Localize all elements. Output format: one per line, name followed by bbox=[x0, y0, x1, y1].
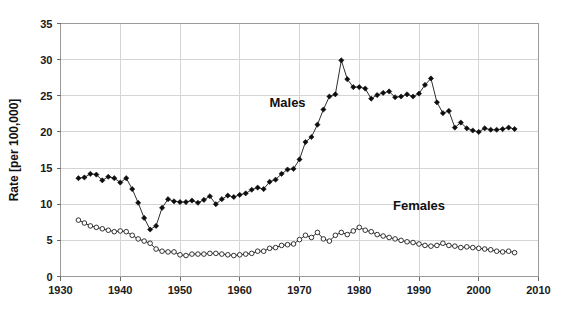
y-axis-tick-labels: 05101520253035 bbox=[40, 18, 52, 283]
data-point-marker bbox=[410, 94, 415, 99]
data-point-marker bbox=[237, 192, 242, 197]
data-point-marker bbox=[303, 233, 308, 238]
data-point-marker bbox=[399, 238, 404, 243]
data-point-marker bbox=[165, 197, 170, 202]
data-point-marker bbox=[243, 252, 248, 257]
data-point-marker bbox=[225, 193, 230, 198]
data-point-marker bbox=[470, 245, 475, 250]
data-point-marker bbox=[130, 233, 135, 238]
y-axis-title-text: Rate [per 100,000] bbox=[7, 99, 21, 202]
x-tick-label: 1970 bbox=[287, 284, 311, 296]
data-point-marker bbox=[423, 243, 428, 248]
data-point-marker bbox=[500, 126, 505, 131]
data-point-marker bbox=[446, 108, 451, 113]
y-axis-title: Rate [per 100,000] bbox=[7, 99, 21, 202]
data-point-marker bbox=[243, 191, 248, 196]
data-point-marker bbox=[82, 221, 87, 226]
y-tick-label: 35 bbox=[40, 18, 52, 30]
y-tick-label: 30 bbox=[40, 54, 52, 66]
data-point-marker bbox=[393, 237, 398, 242]
data-point-marker bbox=[434, 100, 439, 105]
data-point-marker bbox=[124, 229, 129, 234]
data-point-marker bbox=[148, 227, 153, 232]
data-point-marker bbox=[440, 111, 445, 116]
data-point-marker bbox=[130, 186, 135, 191]
data-point-marker bbox=[441, 241, 446, 246]
data-point-marker bbox=[142, 215, 147, 220]
data-point-marker bbox=[201, 197, 206, 202]
data-point-marker bbox=[178, 253, 183, 258]
x-tick-label: 1940 bbox=[108, 284, 132, 296]
data-point-marker bbox=[88, 171, 93, 176]
x-tick-label: 1960 bbox=[228, 284, 252, 296]
series-line-females bbox=[78, 220, 514, 255]
data-point-marker bbox=[100, 226, 105, 231]
data-point-marker bbox=[136, 237, 141, 242]
data-point-marker bbox=[411, 240, 416, 245]
data-point-marker bbox=[482, 126, 487, 131]
data-point-marker bbox=[220, 252, 225, 257]
data-point-marker bbox=[160, 249, 165, 254]
data-point-marker bbox=[369, 96, 374, 101]
data-point-marker bbox=[369, 229, 374, 234]
data-series bbox=[76, 58, 517, 258]
data-point-marker bbox=[315, 122, 320, 127]
data-point-marker bbox=[184, 253, 189, 258]
data-point-marker bbox=[106, 228, 111, 233]
data-point-marker bbox=[321, 237, 326, 242]
data-point-marker bbox=[429, 244, 434, 249]
data-point-marker bbox=[453, 244, 458, 249]
data-point-marker bbox=[506, 249, 511, 254]
data-point-marker bbox=[285, 242, 290, 247]
data-point-marker bbox=[405, 240, 410, 245]
data-point-marker bbox=[387, 235, 392, 240]
data-point-marker bbox=[315, 230, 320, 235]
data-point-marker bbox=[375, 92, 380, 97]
data-point-marker bbox=[159, 205, 164, 210]
data-point-marker bbox=[106, 174, 111, 179]
x-tick-label: 1980 bbox=[347, 284, 371, 296]
data-point-marker bbox=[398, 94, 403, 99]
data-point-marker bbox=[512, 250, 517, 255]
data-point-marker bbox=[112, 229, 117, 234]
data-point-marker bbox=[375, 232, 380, 237]
y-tick-label: 15 bbox=[40, 162, 52, 174]
data-point-marker bbox=[465, 245, 470, 250]
data-point-marker bbox=[506, 125, 511, 130]
data-point-marker bbox=[226, 253, 231, 258]
x-tick-label: 2000 bbox=[467, 284, 491, 296]
data-point-marker bbox=[363, 228, 368, 233]
x-axis-tick-labels: 193019401950196019701980199020002010 bbox=[48, 284, 550, 296]
data-point-marker bbox=[166, 250, 171, 255]
series-females bbox=[76, 218, 517, 258]
data-point-marker bbox=[231, 253, 236, 258]
data-point-marker bbox=[82, 175, 87, 180]
data-point-marker bbox=[154, 247, 159, 252]
data-point-marker bbox=[297, 237, 302, 242]
data-point-marker bbox=[494, 249, 499, 254]
data-point-marker bbox=[190, 252, 195, 257]
chart-container: 05101520253035 1930194019501960197019801… bbox=[0, 0, 572, 312]
data-point-marker bbox=[237, 253, 242, 258]
data-point-marker bbox=[291, 242, 296, 247]
data-point-marker bbox=[202, 252, 207, 257]
data-point-marker bbox=[339, 230, 344, 235]
y-tick-label: 10 bbox=[40, 198, 52, 210]
x-tick-label: 2010 bbox=[526, 284, 550, 296]
data-point-marker bbox=[279, 243, 284, 248]
data-point-marker bbox=[249, 187, 254, 192]
data-point-marker bbox=[476, 129, 481, 134]
data-point-marker bbox=[333, 233, 338, 238]
data-point-marker bbox=[172, 250, 177, 255]
data-point-marker bbox=[291, 166, 296, 171]
series-males bbox=[76, 58, 517, 232]
data-point-marker bbox=[196, 252, 201, 257]
data-point-marker bbox=[500, 250, 505, 255]
data-point-marker bbox=[339, 58, 344, 63]
data-point-marker bbox=[459, 245, 464, 250]
y-tick-label: 5 bbox=[46, 234, 52, 246]
data-point-marker bbox=[357, 225, 362, 230]
data-point-marker bbox=[476, 246, 481, 251]
data-point-marker bbox=[255, 185, 260, 190]
data-point-marker bbox=[327, 239, 332, 244]
